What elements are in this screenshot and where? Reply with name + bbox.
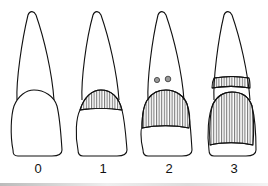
grade-label-0: 0: [28, 161, 48, 176]
bottom-edge: [0, 183, 268, 186]
grade-label-1: 1: [93, 161, 113, 176]
grade-label-2: 2: [159, 161, 179, 176]
teeth-diagram: [0, 0, 268, 186]
tooth-2: [141, 12, 192, 156]
tooth-1: [76, 12, 127, 156]
tooth-3: [208, 12, 256, 156]
grade-label-3: 3: [224, 161, 244, 176]
tooth-0: [11, 12, 62, 156]
